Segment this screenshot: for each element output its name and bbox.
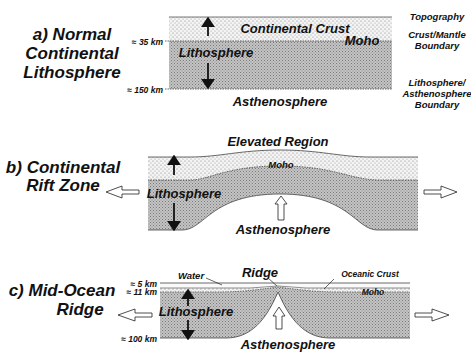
oceanic-crust-label: Oceanic Crust: [341, 269, 400, 279]
depth-label-35km: ≈ 35 km: [132, 37, 164, 47]
panel-a-title-line2: Continental: [25, 44, 120, 63]
depth-label-100km: ≈ 100 km: [121, 334, 157, 344]
extension-arrow-left-icon: [106, 186, 139, 198]
spreading-arrow-left-icon: [118, 309, 152, 321]
extension-arrow-right-icon: [424, 186, 457, 198]
lithosphere-label: Lithosphere: [179, 45, 253, 60]
upwelling-arrow-icon: [275, 196, 287, 220]
panel-b-title-line2: Rift Zone: [26, 176, 100, 195]
moho-label: Moho: [345, 33, 380, 48]
panel-b-title-line1: b) Continental: [6, 158, 122, 177]
water-label: Water: [178, 270, 206, 281]
panel-b: b) Continental Rift Zone Elevated Region…: [6, 134, 457, 237]
crust-mantle-label: Crust/Mantle: [408, 29, 466, 40]
panel-c-title-line1: c) Mid-Ocean: [9, 281, 116, 300]
topography-label: Topography: [410, 11, 465, 22]
panel-c-title-line2: Ridge: [56, 300, 103, 319]
panel-a-title-line1: a) Normal: [33, 25, 113, 44]
panel-a: a) Normal Continental Lithosphere ≈ 35 k…: [23, 11, 471, 110]
elevated-region-label: Elevated Region: [227, 134, 328, 149]
lithosphere-slash-label: Lithosphere/: [408, 77, 466, 88]
moho-label: Moho: [362, 287, 385, 297]
depth-label-150km: ≈ 150 km: [127, 85, 163, 95]
asthenosphere-label: Asthenosphere: [235, 222, 331, 237]
lithosphere-label: Lithosphere: [147, 186, 221, 201]
boundary-label-1: Boundary: [415, 40, 460, 51]
lithosphere-label: Lithosphere: [159, 304, 233, 319]
continental-crust-label: Continental Crust: [240, 21, 350, 36]
asthenosphere-label: Asthenosphere: [240, 337, 336, 352]
ridge-label: Ridge: [242, 265, 278, 280]
spreading-arrow-right-icon: [415, 309, 449, 321]
tectonic-diagram: a) Normal Continental Lithosphere ≈ 35 k…: [0, 0, 471, 359]
moho-label: Moho: [268, 159, 294, 170]
asthenosphere-right-label: Asthenosphere: [401, 88, 471, 99]
depth-label-11km: ≈ 11 km: [127, 287, 158, 297]
panel-a-title-line3: Lithosphere: [23, 63, 120, 82]
upwelling-arrow-icon: [273, 307, 285, 329]
asthenosphere-label: Asthenosphere: [232, 94, 328, 109]
boundary-label-2: Boundary: [415, 99, 460, 110]
panel-c: c) Mid-Ocean Ridge ≈ 5 km ≈ 11 km ≈ 100 …: [9, 265, 449, 352]
